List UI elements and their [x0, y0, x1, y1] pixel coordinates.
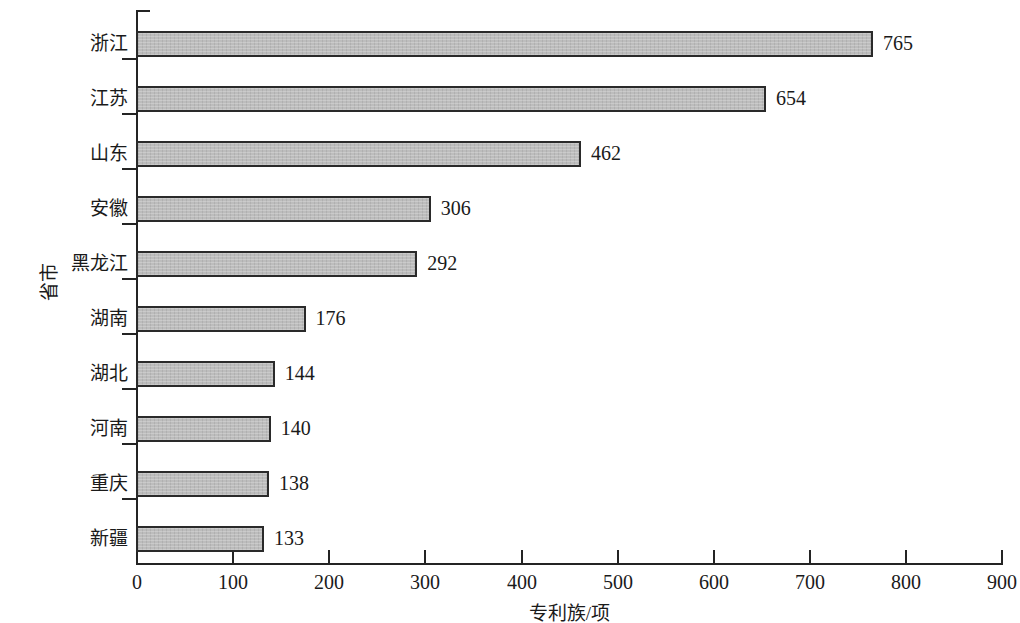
x-axis-tick: [617, 550, 619, 565]
category-label: 黑龙江: [0, 248, 128, 275]
bar-value-label: 462: [591, 142, 621, 165]
x-axis-tick: [809, 550, 811, 565]
x-axis-tick: [136, 550, 138, 565]
bar-value-label: 306: [441, 197, 471, 220]
bar: [136, 526, 264, 552]
bar: [136, 196, 431, 222]
bar: [136, 141, 581, 167]
category-label: 新疆: [0, 523, 128, 550]
y-axis-tick: [122, 278, 136, 280]
bar: [136, 471, 269, 497]
x-axis-tick-label: 800: [871, 571, 941, 594]
x-axis-tick-label: 700: [775, 571, 845, 594]
y-axis-tick: [122, 388, 136, 390]
bar-value-label: 292: [427, 252, 457, 275]
category-label: 安徽: [0, 193, 128, 220]
bar: [136, 86, 766, 112]
x-axis-tick-label: 400: [487, 571, 557, 594]
bar: [136, 416, 271, 442]
x-axis-tick-label: 0: [102, 571, 172, 594]
bar-value-label: 144: [285, 362, 315, 385]
x-axis-tick: [521, 550, 523, 565]
bar-value-label: 133: [274, 527, 304, 550]
category-label: 浙江: [0, 28, 128, 55]
category-label: 江苏: [0, 83, 128, 110]
x-axis-tick: [232, 550, 234, 565]
category-label: 湖北: [0, 358, 128, 385]
y-axis-top-cap: [136, 10, 150, 12]
category-label: 山东: [0, 138, 128, 165]
y-axis-tick: [122, 168, 136, 170]
x-axis-tick: [905, 550, 907, 565]
bar-value-label: 140: [281, 417, 311, 440]
x-axis-line: [136, 563, 1003, 565]
bar: [136, 251, 417, 277]
y-axis-tick: [122, 113, 136, 115]
bar-value-label: 176: [316, 307, 346, 330]
y-axis-tick: [122, 333, 136, 335]
y-axis-tick: [122, 58, 136, 60]
bar-value-label: 765: [883, 32, 913, 55]
y-axis-tick: [122, 443, 136, 445]
category-label: 河南: [0, 413, 128, 440]
bar-chart-figure: 省市 浙江 江苏 山东 安徽 黑龙江 湖南 湖北 河南 重庆 新疆: [0, 0, 1020, 623]
x-axis-title: 专利族/项: [136, 598, 1003, 623]
x-axis-tick-label: 300: [390, 571, 460, 594]
bar: [136, 31, 873, 57]
x-axis-tick-label: 900: [967, 571, 1020, 594]
x-axis-tick: [713, 550, 715, 565]
plot-area: 0 100 200 300 400 500 600 700 800 900 76…: [136, 10, 1003, 565]
bar: [136, 306, 306, 332]
bar-value-label: 138: [279, 472, 309, 495]
x-axis-tick: [424, 550, 426, 565]
x-axis-tick-label: 200: [294, 571, 364, 594]
x-axis-tick-label: 600: [679, 571, 749, 594]
x-axis-tick-label: 100: [198, 571, 268, 594]
x-axis-tick-label: 500: [583, 571, 653, 594]
x-axis-tick: [328, 550, 330, 565]
bar-value-label: 654: [776, 87, 806, 110]
category-label-column: 浙江 江苏 山东 安徽 黑龙江 湖南 湖北 河南 重庆 新疆: [0, 0, 128, 623]
category-label: 湖南: [0, 303, 128, 330]
bar: [136, 361, 275, 387]
category-label: 重庆: [0, 468, 128, 495]
x-axis-tick: [1001, 550, 1003, 565]
y-axis-tick: [122, 498, 136, 500]
y-axis-tick: [122, 223, 136, 225]
